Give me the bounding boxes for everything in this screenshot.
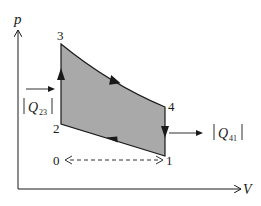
heat-in-subscript: 23: [39, 108, 47, 117]
heat-out-arrow-icon: [196, 130, 203, 136]
heat-in-annotation: Q 23: [24, 86, 55, 117]
point-3-label: 3: [57, 28, 64, 43]
point-2-label: 2: [53, 121, 60, 136]
p-axis-label: p: [13, 11, 22, 27]
heat-in-symbol: Q: [28, 100, 38, 115]
point-4-label: 4: [168, 99, 175, 114]
point-1-label: 1: [166, 153, 173, 168]
pv-diagram: p V 3 2 4 1 0 Q 23 Q 41: [0, 0, 261, 206]
point-0-label: 0: [53, 153, 60, 168]
heat-out-subscript: 41: [229, 134, 237, 143]
v-axis-label: V: [243, 182, 253, 197]
heat-out-annotation: Q 41: [169, 124, 242, 143]
heat-out-symbol: Q: [218, 126, 228, 141]
heat-in-arrow-icon: [48, 86, 55, 92]
